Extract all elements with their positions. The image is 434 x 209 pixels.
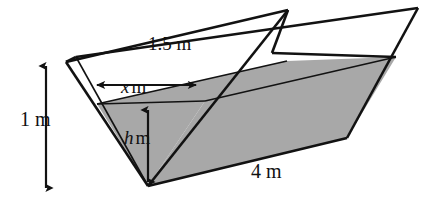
inner-rim-band-edge xyxy=(272,53,396,57)
trough-diagram-figure: 1.5 m 1 m xm hm 4 m xyxy=(0,0,434,209)
label-water-depth: hm xyxy=(124,128,150,147)
trough-diagram-svg xyxy=(0,0,434,209)
label-water-width: xm xyxy=(121,77,146,96)
label-water-width-unit: m xyxy=(131,76,146,97)
label-depth: 1 m xyxy=(20,109,51,129)
label-top-width: 1.5 m xyxy=(148,34,191,53)
label-length: 4 m xyxy=(251,161,282,181)
label-water-depth-symbol: h xyxy=(124,127,134,148)
label-water-width-symbol: x xyxy=(121,76,129,97)
near-rim-right-corner xyxy=(272,10,288,53)
far-top-rim-edge xyxy=(76,8,418,57)
label-water-depth-unit: m xyxy=(136,127,151,148)
